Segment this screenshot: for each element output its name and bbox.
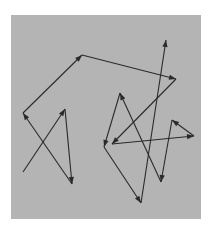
path-diagram — [0, 0, 215, 227]
diagram-panel — [11, 15, 201, 219]
